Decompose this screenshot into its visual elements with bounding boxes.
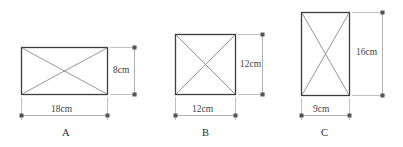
figure-c-width-label: 9cm xyxy=(313,105,329,115)
figure-b-width-tick-left xyxy=(174,114,178,118)
figure-a-height-label: 8cm xyxy=(113,66,129,76)
figure-a-width-tick-left xyxy=(20,114,24,118)
figure-c-height-tick-bottom xyxy=(381,94,385,98)
figure-a-height-tick-top xyxy=(133,46,137,50)
figure-c-height-tick-top xyxy=(381,11,385,15)
figure-b-height-label: 12cm xyxy=(240,60,261,70)
figure-a-name-label: A xyxy=(62,128,70,139)
figure-c-width-tick-right xyxy=(348,114,352,118)
geometry-drawing xyxy=(0,0,403,147)
figure-c-height-label: 16cm xyxy=(356,48,377,58)
figure-a-width-tick-right xyxy=(106,114,110,118)
figure-b-group xyxy=(174,33,266,121)
figure-c-width-tick-left xyxy=(300,114,304,118)
figure-c-name-label: C xyxy=(321,128,328,139)
figure-a-group xyxy=(20,46,138,121)
figure-b-width-tick-right xyxy=(234,114,238,118)
figure-a-width-label: 18cm xyxy=(51,105,72,115)
diagram-canvas: 18cm 8cm A 12cm 12cm B 9cm 16cm C xyxy=(0,0,403,147)
figure-b-width-label: 12cm xyxy=(192,105,213,115)
figure-b-height-tick-top xyxy=(261,33,265,37)
figure-b-height-tick-bottom xyxy=(261,93,265,97)
figure-a-height-tick-bottom xyxy=(133,93,137,97)
figure-b-name-label: B xyxy=(202,128,209,139)
